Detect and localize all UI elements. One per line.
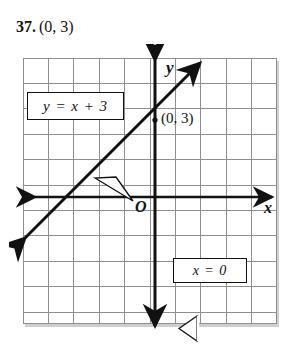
callout-line-equation-text: y = x + 3 — [43, 98, 108, 115]
point-label-0-3: (0, 3) — [161, 110, 194, 127]
problem-number: 37. — [16, 18, 36, 35]
equation-callout-tail — [83, 116, 163, 216]
y-axis-label: y — [166, 58, 174, 78]
callout-x-equals-zero-text: x = 0 — [193, 263, 228, 279]
x-equals-zero-callout-tail — [151, 310, 211, 347]
callout-x-equals-zero: x = 0 — [173, 258, 247, 283]
callout-line-equation: y = x + 3 — [27, 92, 124, 120]
x-axis-label: x — [264, 199, 272, 217]
problem-answer: (0, 3) — [39, 18, 74, 35]
problem-header: 37.(0, 3) — [16, 18, 74, 36]
